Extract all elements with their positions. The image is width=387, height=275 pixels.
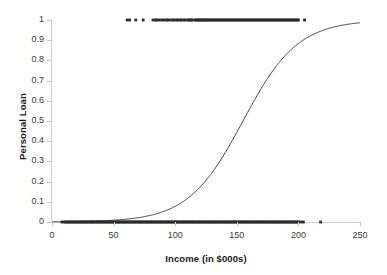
scatter-point	[319, 221, 322, 224]
scatter-point	[134, 19, 137, 22]
x-tick-mark	[175, 222, 176, 226]
scatter-point	[126, 19, 129, 22]
scatter-point	[166, 19, 169, 22]
y-tick-mark	[47, 202, 52, 203]
scatter-point	[180, 19, 183, 22]
y-tick-mark	[47, 60, 52, 61]
y-tick-label: 0.9	[10, 35, 44, 44]
scatter-point	[302, 221, 305, 224]
scatter-point	[299, 221, 302, 224]
scatter-point	[303, 19, 306, 22]
y-tick-mark	[47, 101, 52, 102]
scatter-point	[60, 221, 63, 224]
y-tick-mark	[47, 121, 52, 122]
scatter-point	[152, 19, 155, 22]
scatter-point	[184, 19, 187, 22]
scatter-point	[142, 19, 145, 22]
x-tick-label: 100	[155, 231, 195, 240]
scatter-point	[163, 19, 166, 22]
x-tick-label: 0	[32, 231, 72, 240]
scatter-point	[191, 19, 194, 22]
logistic-regression-chart: Personal Loan Income (in $000s) 00.10.20…	[0, 0, 387, 275]
scatter-point	[169, 19, 172, 22]
x-tick-mark	[237, 222, 238, 226]
y-tick-label: 0.1	[10, 197, 44, 206]
x-tick-label: 250	[340, 231, 380, 240]
y-tick-mark	[47, 141, 52, 142]
y-tick-label: 0.8	[10, 55, 44, 64]
x-tick-mark	[360, 222, 361, 226]
scatter-point	[173, 19, 176, 22]
x-tick-label: 50	[94, 231, 134, 240]
scatter-markers-layer	[52, 20, 360, 222]
y-tick-label: 0	[10, 217, 44, 226]
x-axis-title: Income (in $000s)	[52, 253, 360, 264]
scatter-series	[126, 19, 306, 22]
y-tick-mark	[47, 182, 52, 183]
y-tick-mark	[47, 20, 52, 21]
scatter-point	[297, 19, 300, 22]
y-tick-mark	[47, 161, 52, 162]
scatter-point	[155, 19, 158, 22]
x-tick-label: 150	[217, 231, 257, 240]
x-tick-mark	[52, 222, 53, 226]
y-tick-mark	[47, 81, 52, 82]
scatter-point	[158, 19, 161, 22]
x-tick-label: 200	[278, 231, 318, 240]
y-tick-label: 1	[10, 15, 44, 24]
y-tick-label: 0.7	[10, 76, 44, 85]
scatter-point	[176, 19, 179, 22]
plot-area	[52, 20, 360, 222]
y-tick-mark	[47, 40, 52, 41]
y-tick-label: 0.6	[10, 96, 44, 105]
scatter-point	[160, 19, 163, 22]
y-tick-label: 0.3	[10, 156, 44, 165]
scatter-point	[128, 19, 131, 22]
x-tick-mark	[298, 222, 299, 226]
scatter-series	[60, 221, 322, 224]
x-tick-mark	[114, 222, 115, 226]
y-tick-label: 0.5	[10, 116, 44, 125]
y-tick-label: 0.4	[10, 136, 44, 145]
y-tick-label: 0.2	[10, 177, 44, 186]
